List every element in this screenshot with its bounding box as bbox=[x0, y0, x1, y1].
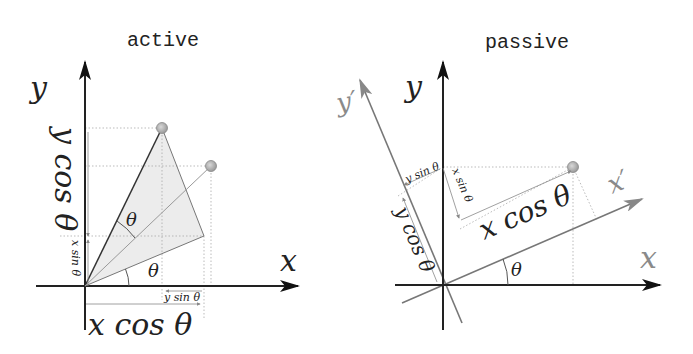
passive-point bbox=[568, 162, 579, 173]
rotated-point bbox=[157, 123, 168, 134]
passive-yprime-axis bbox=[360, 80, 462, 323]
rotation-wedge bbox=[85, 128, 204, 286]
angle-label-lower: θ bbox=[148, 260, 159, 281]
angle-arc-lower bbox=[126, 269, 130, 286]
passive-angle-arc bbox=[503, 259, 508, 285]
active-panel: active θ θ y bbox=[28, 29, 298, 342]
passive-title: passive bbox=[485, 31, 569, 54]
dim-y-cos-label: y cos θ bbox=[390, 202, 440, 276]
passive-y-label: y bbox=[403, 69, 423, 104]
dim-y-sin-label: y sin θ bbox=[163, 291, 200, 304]
passive-xprime-label: x′ bbox=[603, 164, 634, 200]
active-x-label: x bbox=[280, 243, 297, 278]
dim-y-cos-label: y cos θ bbox=[48, 125, 83, 231]
passive-angle-label: θ bbox=[511, 259, 522, 280]
rotation-diagram: active θ θ y bbox=[0, 0, 693, 354]
passive-x-label: x bbox=[640, 240, 657, 275]
dim-y-sin-label: y sin θ bbox=[402, 160, 442, 187]
passive-yprime-label: y′ bbox=[333, 85, 360, 118]
angle-label-upper: θ bbox=[126, 209, 137, 230]
active-y-label: y bbox=[28, 70, 48, 105]
active-title: active bbox=[127, 29, 199, 52]
dim-x-cos-label: x cos θ bbox=[88, 307, 192, 342]
dim-x-sin-label: x sin θ bbox=[69, 240, 82, 276]
original-point bbox=[206, 161, 217, 172]
passive-panel: passive θ y x x′ y′ y sin θ x sin bbox=[333, 31, 660, 330]
dim-x-cos-label: x cos θ bbox=[474, 178, 577, 246]
